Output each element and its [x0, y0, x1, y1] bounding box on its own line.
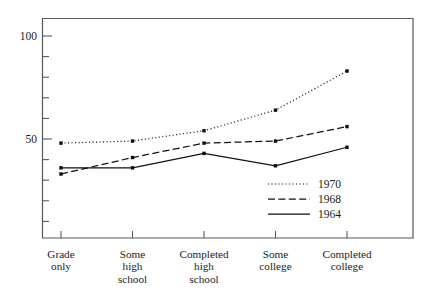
x-axis-tick-label: Some college [259, 248, 291, 273]
data-point-marker [202, 152, 205, 155]
x-axis-tick-label: Completed high school [179, 248, 228, 285]
legend-label-1970: 1970 [318, 178, 341, 190]
data-point-marker [274, 139, 277, 142]
data-point-marker [59, 166, 62, 169]
line-chart: 10050 197019681964 Grade onlySome high s… [0, 0, 430, 299]
data-point-marker [131, 166, 134, 169]
x-axis-ticks [61, 231, 347, 238]
x-axis-tick-label: Grade only [47, 248, 74, 273]
y-axis-tick-label: 100 [20, 30, 38, 42]
data-point-marker [202, 141, 205, 144]
data-point-marker [131, 156, 134, 159]
data-point-marker [274, 108, 277, 111]
data-point-marker [131, 139, 134, 142]
y-axis-ticks [43, 36, 53, 221]
data-point-marker [345, 69, 348, 72]
series-line-1968 [61, 127, 347, 174]
data-point-marker [345, 146, 348, 149]
plot-frame [43, 19, 414, 239]
legend-label-1964: 1964 [318, 208, 341, 220]
data-point-marker [345, 125, 348, 128]
legend-label-1968: 1968 [318, 193, 341, 205]
data-series-layer [59, 69, 348, 175]
y-axis-tick-label: 50 [26, 133, 38, 145]
data-point-marker [274, 164, 277, 167]
data-point-marker [202, 129, 205, 132]
y-axis-labels: 10050 [20, 30, 38, 145]
x-axis-tick-label: Completed college [322, 248, 371, 273]
x-axis-tick-label: Some high school [118, 248, 147, 285]
chart-legend: 197019681964 [268, 178, 341, 220]
data-point-marker [59, 141, 62, 144]
data-point-marker [59, 172, 62, 175]
